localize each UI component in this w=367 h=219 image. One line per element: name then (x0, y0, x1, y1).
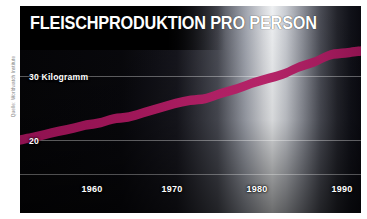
y-axis-label-20: 20 (29, 136, 39, 146)
source-credit-strip: Quelle: Worldwatch Institute (0, 0, 18, 219)
source-credit-label: Quelle: Worldwatch Institute (11, 12, 16, 162)
x-axis-label-1970: 1970 (161, 184, 182, 194)
y-axis-label-30: 30 Kilogramm (29, 72, 88, 82)
x-axis-label-1990: 1990 (331, 184, 352, 194)
gridline-20 (20, 140, 361, 141)
x-axis-strip: 1960 1970 1980 1990 (20, 174, 361, 213)
x-axis-label-1980: 1980 (246, 184, 267, 194)
chart-figure: Quelle: Worldwatch Institute (0, 0, 367, 219)
x-axis-label-1960: 1960 (81, 184, 102, 194)
page-title: FLEISCHPRODUKTION PRO PERSON (30, 15, 317, 33)
chart-frame: 30 Kilogramm 20 1960 1970 1980 1990 FLEI… (18, 4, 363, 215)
